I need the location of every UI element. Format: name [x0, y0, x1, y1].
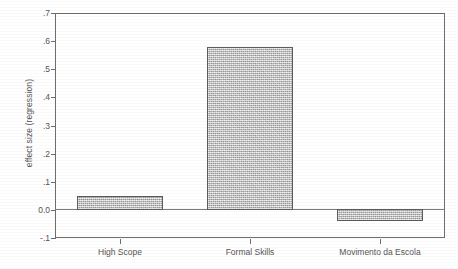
x-tick-mark-1	[250, 239, 251, 244]
bar-formal-skills	[207, 47, 293, 210]
bar-chart-figure: effect size (regression) .7 .6 .5 .4 .3 …	[0, 0, 458, 269]
bars-layer	[0, 0, 458, 269]
x-tick-label-movimento-da-escola: Movimento da Escola	[313, 248, 447, 257]
x-tick-mark-2	[380, 239, 381, 244]
bar-high-scope	[77, 196, 163, 210]
x-tick-label-high-scope: High Scope	[70, 248, 170, 257]
bar-movimento-da-escola	[337, 209, 423, 221]
x-tick-label-formal-skills: Formal Skills	[200, 248, 300, 257]
x-tick-mark-0	[120, 239, 121, 244]
